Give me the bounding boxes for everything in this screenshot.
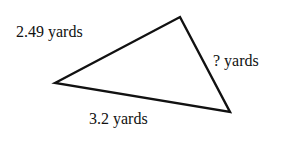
side-label-bottom: 3.2 yards xyxy=(89,111,148,127)
triangle-diagram: 2.49 yards ? yards 3.2 yards xyxy=(0,0,287,144)
side-label-right: ? yards xyxy=(213,53,259,69)
side-label-left: 2.49 yards xyxy=(16,24,83,40)
